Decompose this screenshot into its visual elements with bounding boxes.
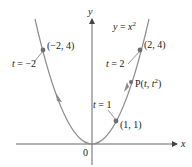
leader-t-1 [108, 110, 116, 120]
curve-equation-label: y = x2 [112, 20, 137, 32]
point-label-neg2-4: (−2, 4) [47, 40, 74, 52]
param-label-t-2: t = 2 [106, 58, 124, 69]
point-P-label: P(t, t2) [135, 77, 161, 90]
origin-label: 0 [83, 147, 88, 158]
parabola-diagram: y x 0 y = x2 (−2, 4) (2, 4) (1, 1) P(t, … [0, 0, 192, 167]
x-axis-label: x [180, 138, 186, 149]
point-P [129, 80, 133, 84]
point-neg2-4 [41, 48, 46, 53]
point-1-1 [114, 119, 119, 124]
point-label-1-1: (1, 1) [120, 119, 142, 131]
direction-arrow-right [124, 82, 129, 92]
point-label-2-4: (2, 4) [144, 39, 166, 51]
y-axis-label: y [87, 6, 93, 17]
point-2-4 [138, 48, 143, 53]
param-label-t-1: t = 1 [93, 99, 111, 110]
direction-arrow-left [56, 93, 62, 102]
param-label-t-neg2: t = −2 [12, 58, 36, 69]
